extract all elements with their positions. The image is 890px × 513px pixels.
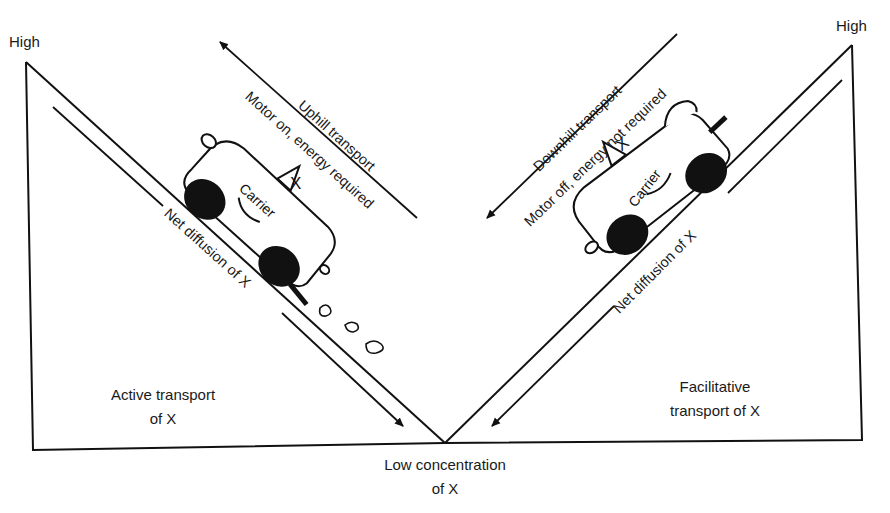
facilitative-transport-line2: transport of X	[640, 401, 790, 421]
low-concentration-line2: of X	[365, 479, 525, 499]
exhaust-puffs-icon	[320, 305, 384, 353]
facilitative-transport-line1: Facilitative	[640, 377, 790, 397]
high-label-right: High	[836, 16, 867, 36]
facilitative-transport-label: Facilitative transport of X	[640, 377, 790, 421]
active-transport-line1: Active transport	[88, 385, 238, 405]
left-substance-x: X	[290, 174, 301, 194]
active-transport-line2: of X	[88, 409, 238, 429]
low-concentration-line1: Low concentration	[365, 455, 525, 475]
active-transport-label: Active transport of X	[88, 385, 238, 429]
low-concentration-label: Low concentration of X	[365, 455, 525, 499]
high-label-left: High	[9, 32, 40, 52]
diagram-canvas	[0, 0, 890, 513]
